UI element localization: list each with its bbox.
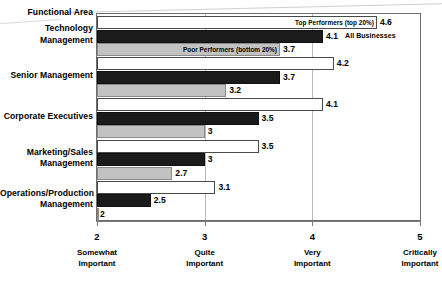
bar-row: 4.1	[97, 98, 420, 112]
bar-value-label: 3.7	[280, 44, 295, 54]
bar-black[interactable]	[97, 71, 280, 84]
bar-row: 3	[97, 125, 420, 139]
bar-row: 4.6Top Performers (top 20%)	[97, 16, 420, 30]
bar-row: 3.7Poor Performers (bottom 20%)	[97, 43, 420, 57]
bar-row: 3.1	[97, 181, 420, 195]
bar-chart: Functional Area 4.6Top Performers (top 2…	[0, 0, 442, 285]
bar-row: 4.2	[97, 57, 420, 71]
bar-value-label: 2	[97, 209, 105, 219]
x-axis-tick-description: CriticallyImportant	[380, 248, 442, 269]
y-axis-label: Senior Management	[0, 70, 93, 81]
y-axis-label-line: Technology	[0, 23, 93, 34]
bar-row: 3.7	[97, 71, 420, 85]
y-axis-label-line: Marketing/Sales	[0, 147, 93, 158]
x-axis-tick	[312, 221, 313, 226]
series-annotation: All Businesses	[345, 32, 396, 39]
bar-row: 2	[97, 208, 420, 222]
bar-value-label: 3	[205, 154, 213, 164]
bar-row: 3.5	[97, 140, 420, 154]
bar-value-label: 2.5	[151, 195, 166, 205]
x-axis-tick-description-line: Critically	[380, 248, 442, 259]
x-axis-tick-label: 4	[277, 231, 347, 242]
bar-row: 3	[97, 153, 420, 167]
bar-value-label: 3.2	[226, 85, 241, 95]
bar-gray[interactable]	[97, 167, 172, 180]
y-axis-label-line: Management	[0, 199, 93, 210]
x-axis-tick-description-line: Important	[272, 259, 352, 270]
bar-value-label: 3.7	[280, 72, 295, 82]
bar-row: 2.7	[97, 167, 420, 181]
bar-row: 4.1All Businesses	[97, 30, 420, 44]
x-axis-tick	[205, 221, 206, 226]
bar-black[interactable]	[97, 30, 323, 43]
bar-row: 2.5	[97, 194, 420, 208]
y-axis-label-line: Management	[0, 35, 93, 46]
x-axis-tick-description-line: Somewhat	[57, 248, 137, 259]
y-axis-label: Marketing/SalesManagement	[0, 147, 93, 169]
bar-value-label: 3.5	[259, 141, 274, 151]
bar-black[interactable]	[97, 194, 151, 207]
bar-white[interactable]	[97, 140, 259, 153]
bar-value-label: 3	[205, 126, 213, 136]
y-axis-label: Corporate Executives	[0, 111, 93, 122]
plot-area: 4.6Top Performers (top 20%)4.1All Busine…	[96, 13, 421, 221]
x-axis-tick-label: 5	[385, 231, 442, 242]
x-axis-tick-description: SomewhatImportant	[57, 248, 137, 269]
x-axis-tick-description: QuiteImportant	[165, 248, 245, 269]
y-axis-title: Functional Area	[0, 7, 93, 17]
bar-value-label: 3.5	[259, 113, 274, 123]
x-axis-tick	[420, 221, 421, 226]
bar-row: 3.5	[97, 112, 420, 126]
x-axis-tick-label: 2	[62, 231, 132, 242]
series-annotation: Top Performers (top 20%)	[295, 19, 374, 26]
y-axis-label-line: Management	[0, 158, 93, 169]
bar-white[interactable]	[97, 57, 334, 70]
bar-value-label: 4.2	[334, 58, 349, 68]
bar-value-label: 4.6	[377, 17, 392, 27]
x-axis-tick-description-line: Important	[57, 259, 137, 270]
y-axis-label: TechnologyManagement	[0, 23, 93, 45]
bar-value-label: 4.1	[323, 31, 338, 41]
x-axis-tick-description-line: Quite	[165, 248, 245, 259]
y-axis-label-line: Senior Management	[0, 70, 93, 81]
y-axis-label-line: Corporate Executives	[0, 111, 93, 122]
bar-value-label: 3.1	[215, 182, 230, 192]
x-axis-tick-description-line: Important	[165, 259, 245, 270]
x-axis-tick-description-line: Very	[272, 248, 352, 259]
x-axis-tick-description-line: Important	[380, 259, 442, 270]
bar-white[interactable]	[97, 181, 215, 194]
bar-black[interactable]	[97, 153, 205, 166]
bar-value-label: 2.7	[172, 168, 187, 178]
bar-gray[interactable]	[97, 125, 205, 138]
series-annotation: Poor Performers (bottom 20%)	[183, 46, 277, 53]
x-axis-tick-description: VeryImportant	[272, 248, 352, 269]
x-axis-line	[96, 221, 421, 222]
x-axis-tick-label: 3	[170, 231, 240, 242]
bar-white[interactable]	[97, 98, 323, 111]
bar-value-label: 4.1	[323, 99, 338, 109]
y-axis-label: Operations/ProductionManagement	[0, 188, 93, 210]
bar-row: 3.2	[97, 84, 420, 98]
bar-black[interactable]	[97, 112, 259, 125]
y-axis-label-line: Operations/Production	[0, 188, 93, 199]
x-axis-tick	[97, 221, 98, 226]
bar-gray[interactable]	[97, 84, 226, 97]
